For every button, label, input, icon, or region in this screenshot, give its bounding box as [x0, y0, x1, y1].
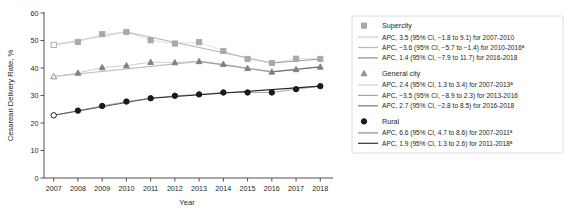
legend-entry-text: APC, 1.4 (95% CI, −7.9 to 11.7) for 2016…: [382, 54, 518, 62]
series-connector-general-city: [54, 61, 321, 76]
x-tick-label: 2018: [312, 184, 328, 193]
data-point-supercity: [124, 29, 129, 34]
data-point-general-city: [196, 58, 202, 63]
x-tick-label: 2015: [240, 184, 256, 193]
legend-heading: Rural: [382, 117, 400, 126]
legend-entry-text: APC, −3.5 (95% CI, −8.9 to 2.3) for 2013…: [382, 92, 518, 100]
y-axis-title: Cesarean Delivery Rate, %: [6, 49, 15, 141]
legend-marker-square: [361, 23, 366, 28]
x-tick-label: 2008: [70, 184, 86, 193]
data-point-supercity: [293, 56, 298, 61]
legend-superscript: a: [522, 44, 525, 49]
data-point-rural: [99, 103, 104, 108]
data-point-rural: [293, 86, 298, 91]
x-tick-label: 2012: [167, 184, 183, 193]
y-tick-label: 50: [31, 36, 39, 45]
legend-entry-text: APC, 6.6 (95% CI, 4.7 to 8.6) for 2007-2…: [382, 129, 513, 137]
legend-entry-text: APC, 3.5 (95% CI, −1.8 to 9.1) for 2007-…: [382, 34, 514, 42]
figure-container: 0102030405060200720082009201020112012201…: [0, 0, 567, 222]
x-tick-label: 2011: [143, 184, 158, 193]
plot-layer: 0102030405060200720082009201020112012201…: [6, 9, 333, 207]
x-tick-label: 2016: [264, 184, 280, 193]
data-point-rural: [196, 92, 201, 97]
legend-entry-text: APC, 2.7 (95% CI, −2.8 to 8.5) for 2016-…: [382, 102, 514, 110]
data-point-supercity: [197, 40, 202, 45]
data-point-supercity: [51, 42, 56, 47]
data-point-rural: [245, 90, 250, 95]
legend-entry-text: APC, −3.6 (95% CI, −5.7 to −1.4) for 201…: [382, 44, 525, 52]
y-tick-label: 60: [31, 9, 39, 18]
legend-heading: General city: [382, 69, 421, 78]
legend-superscript: a: [510, 129, 513, 134]
trend-segment: [199, 61, 272, 71]
legend-layer: SupercityAPC, 3.5 (95% CI, −1.8 to 9.1) …: [352, 16, 563, 153]
legend-entry-text: APC, 2.4 (95% CI, 1.3 to 3.4) for 2007-2…: [382, 81, 513, 89]
series-connector-supercity: [54, 32, 321, 63]
data-point-supercity: [75, 39, 80, 44]
data-point-general-city: [148, 59, 154, 64]
y-tick-label: 10: [31, 146, 39, 155]
x-tick-label: 2014: [215, 184, 231, 193]
y-tick-label: 20: [31, 119, 39, 128]
y-tick-label: 30: [31, 91, 39, 100]
data-point-supercity: [100, 32, 105, 37]
data-point-rural: [148, 96, 153, 101]
legend-marker-circle: [361, 119, 366, 124]
data-point-rural: [51, 113, 56, 118]
data-point-general-city: [317, 64, 323, 69]
x-tick-label: 2009: [94, 184, 110, 193]
x-tick-label: 2007: [46, 184, 62, 193]
series-connector-rural: [54, 86, 321, 115]
y-tick-label: 40: [31, 64, 39, 73]
data-point-rural: [221, 90, 226, 95]
data-point-rural: [124, 99, 129, 104]
x-tick-label: 2013: [191, 184, 207, 193]
data-point-supercity: [269, 60, 274, 65]
x-tick-label: 2017: [288, 184, 304, 193]
data-point-rural: [75, 108, 80, 113]
x-axis-title: Year: [179, 198, 195, 207]
y-tick-label: 0: [35, 174, 39, 183]
trend-segment: [54, 32, 127, 45]
legend-superscript: a: [510, 81, 513, 86]
legend-heading: Supercity: [382, 21, 412, 30]
data-point-supercity: [172, 41, 177, 46]
data-point-supercity: [245, 56, 250, 61]
data-point-supercity: [221, 48, 226, 53]
data-point-rural: [318, 83, 323, 88]
data-point-supercity: [148, 38, 153, 43]
data-point-rural: [172, 93, 177, 98]
cesarean-delivery-rate-line-chart: 0102030405060200720082009201020112012201…: [0, 0, 567, 222]
x-tick-label: 2010: [118, 184, 134, 193]
legend-superscript: a: [510, 140, 513, 145]
data-point-rural: [269, 90, 274, 95]
data-point-supercity: [318, 56, 323, 61]
legend-entry-text: APC, 1.9 (95% CI, 1.3 to 2.6) for 2011-2…: [382, 140, 513, 148]
